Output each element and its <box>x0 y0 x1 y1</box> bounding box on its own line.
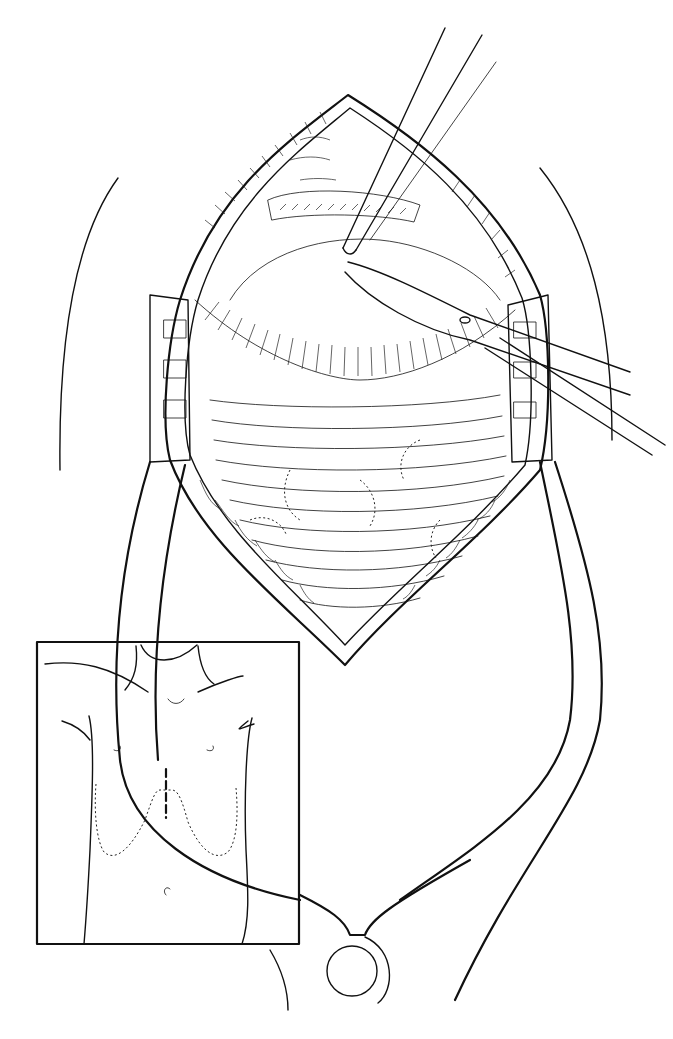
surgical-illustration <box>0 0 673 1039</box>
retractor <box>116 295 602 1010</box>
body-contour <box>60 168 612 470</box>
upper-tissue <box>230 137 500 300</box>
retractor-slot <box>514 322 536 338</box>
organ-texture <box>210 395 506 607</box>
inset-torso-diagram <box>37 642 299 944</box>
retractor-slot <box>514 402 536 418</box>
scissors-pivot <box>460 317 470 323</box>
scissors <box>345 262 665 455</box>
retractor-slot <box>164 400 186 418</box>
retractor-slot <box>514 362 536 378</box>
forceps <box>343 28 496 254</box>
retractor-hinge <box>327 946 377 996</box>
